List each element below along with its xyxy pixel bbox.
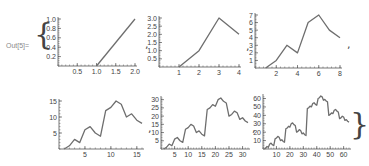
y-tick-label: 0.2 <box>46 53 56 60</box>
x-tick-label: 1 <box>177 69 181 76</box>
x-tick-label: 10 <box>107 151 115 158</box>
x-tick-label: 40 <box>313 151 321 158</box>
y-tick-label: 15 <box>49 98 57 105</box>
separator-1: , <box>145 38 149 51</box>
y-tick-label: 4 <box>249 34 253 41</box>
x-tick-label: 20 <box>211 151 219 158</box>
y-tick-label: 5 <box>249 27 253 34</box>
x-tick-label: 5 <box>173 151 177 158</box>
x-tick-label: 30 <box>299 151 307 158</box>
x-tick-label: 8 <box>338 70 342 77</box>
x-tick-label: 10 <box>273 151 281 158</box>
y-tick-label: 25 <box>151 104 159 111</box>
x-tick-label: 2 <box>197 69 201 76</box>
x-tick-label: 4 <box>296 70 300 77</box>
y-tick-label: 2.0 <box>147 31 157 38</box>
x-tick-label: 0.5 <box>72 68 82 75</box>
close-brace: } <box>350 109 369 139</box>
x-tick-label: 3 <box>217 69 221 76</box>
x-tick-label: 2.0 <box>130 68 140 75</box>
y-tick-label: 5 <box>53 130 57 137</box>
separator-5: , <box>252 122 256 135</box>
plot-3: 24681234567 <box>249 12 342 78</box>
plot-4: 5101551015 <box>49 98 144 159</box>
y-tick-label: 2.5 <box>147 23 157 30</box>
data-line <box>266 15 340 68</box>
x-tick-label: 1.0 <box>92 68 102 75</box>
separator-4: , <box>148 122 152 135</box>
y-tick-label: 0.4 <box>46 44 56 51</box>
y-tick-label: 1 <box>249 57 253 64</box>
plot-1: 0.51.01.52.00.20.40.60.81.0 <box>46 16 140 76</box>
separator-3: , <box>347 38 351 51</box>
y-tick-label: 1.0 <box>46 16 56 23</box>
data-line <box>164 98 248 149</box>
x-tick-label: 20 <box>286 151 294 158</box>
data-line <box>97 19 136 66</box>
y-tick-label: 3.0 <box>147 15 157 22</box>
y-tick-label: 7 <box>249 12 253 19</box>
y-tick-label: 15 <box>151 121 159 128</box>
y-tick-label: 0.6 <box>46 34 56 41</box>
y-tick-label: 10 <box>49 114 57 121</box>
y-tick-label: 10 <box>151 129 159 136</box>
data-line <box>264 96 349 149</box>
x-tick-label: 4 <box>237 69 241 76</box>
x-tick-label: 2 <box>274 70 278 77</box>
y-tick-label: 5 <box>155 137 159 144</box>
y-tick-label: 20 <box>151 113 159 120</box>
x-tick-label: 5 <box>83 151 87 158</box>
plot-2: 12340.51.01.52.02.53.0 <box>147 15 241 77</box>
y-tick-label: 60 <box>253 95 261 102</box>
y-tick-label: 0.5 <box>147 55 157 62</box>
x-tick-label: 15 <box>133 151 141 158</box>
y-tick-label: 2 <box>249 49 253 56</box>
y-tick-label: 50 <box>253 103 261 110</box>
y-tick-label: 40 <box>253 112 261 119</box>
x-tick-label: 15 <box>198 151 206 158</box>
separator-2: , <box>246 40 250 53</box>
y-tick-label: 0.8 <box>46 25 56 32</box>
x-tick-label: 10 <box>184 151 192 158</box>
plot-6: 102030405060102030405060 <box>253 94 351 158</box>
x-tick-label: 30 <box>239 151 247 158</box>
x-tick-label: 6 <box>317 70 321 77</box>
y-tick-label: 10 <box>253 137 261 144</box>
y-tick-label: 6 <box>249 19 253 26</box>
x-tick-label: 60 <box>340 151 348 158</box>
plot-5: 5101520253051015202530 <box>151 96 250 158</box>
y-tick-label: 1.5 <box>147 39 157 46</box>
y-tick-label: 30 <box>151 96 159 103</box>
x-tick-label: 1.5 <box>111 68 121 75</box>
y-tick-label: 1.0 <box>147 47 157 54</box>
x-tick-label: 50 <box>326 151 334 158</box>
x-tick-label: 25 <box>225 151 233 158</box>
data-line <box>179 18 239 67</box>
data-line <box>64 101 142 149</box>
y-tick-label: 3 <box>249 42 253 49</box>
